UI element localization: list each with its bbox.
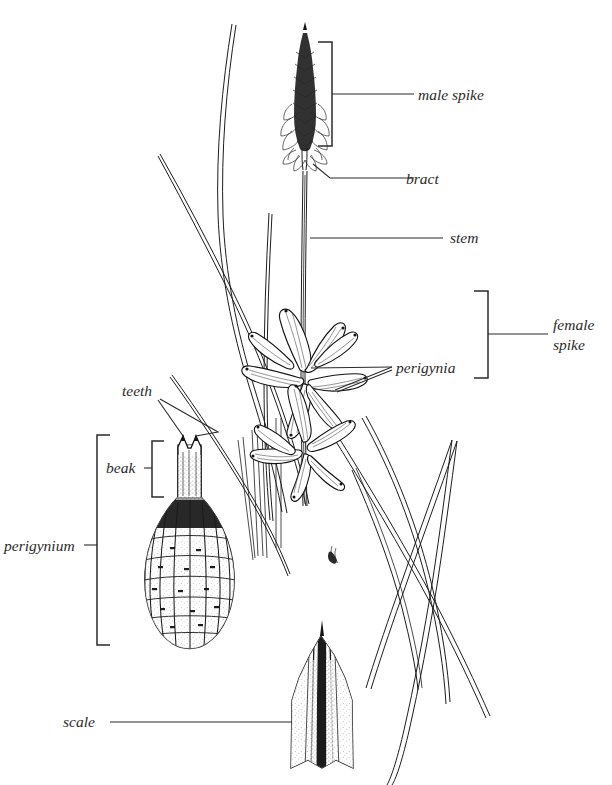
- female-spike-bracket: [474, 291, 488, 378]
- female-spike-lower: [250, 385, 355, 502]
- annotation-beak: beak: [106, 441, 164, 497]
- bract-leader: [313, 164, 414, 178]
- perigynium-label: perigynium: [3, 537, 75, 554]
- base-detail: [328, 546, 338, 564]
- botanical-figure: male spike bract stem female spike perig…: [0, 0, 612, 785]
- perigynium-detail: [140, 434, 240, 655]
- male-spike-label: male spike: [418, 86, 484, 103]
- annotation-stem: stem: [310, 229, 478, 246]
- stem-label: stem: [450, 229, 478, 246]
- male-spike-bracket: [318, 42, 332, 146]
- bract-label: bract: [406, 170, 439, 187]
- annotation-male-spike: male spike: [318, 42, 484, 146]
- leaf-blades-right: [330, 416, 490, 785]
- beak-bracket: [152, 441, 164, 497]
- annotation-perigynium: perigynium: [3, 435, 110, 645]
- female-spike-label-line2: spike: [553, 336, 585, 353]
- beak-label: beak: [106, 459, 136, 476]
- female-spike-label-line1: female: [553, 316, 594, 333]
- annotation-scale: scale: [63, 713, 292, 730]
- scale-label: scale: [63, 713, 95, 730]
- teeth-label: teeth: [122, 382, 152, 399]
- perigynium-teeth: [181, 434, 198, 441]
- annotation-teeth: teeth: [122, 382, 218, 436]
- bract: [283, 148, 327, 171]
- illustration-canvas: male spike bract stem female spike perig…: [0, 0, 612, 785]
- perigynia-leader-upper: [311, 367, 392, 368]
- scale-detail: [288, 620, 358, 775]
- annotation-bract: bract: [313, 164, 439, 187]
- annotation-female-spike: female spike: [474, 291, 594, 378]
- perigynia-label: perigynia: [395, 359, 456, 376]
